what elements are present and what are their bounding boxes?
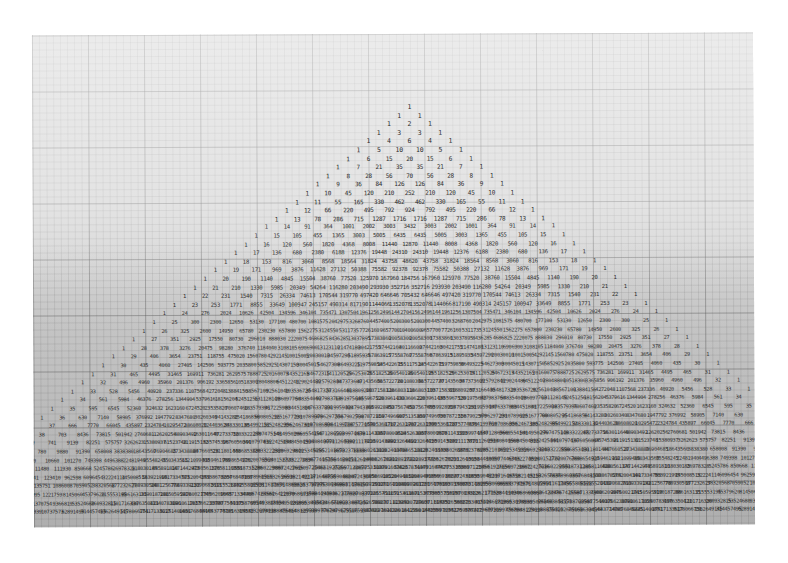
triangle-entry: 23535820 bbox=[594, 404, 617, 409]
triangle-entry: 1771 bbox=[230, 302, 242, 308]
triangle-entry: 136 bbox=[272, 251, 281, 257]
triangle-entry: 9 bbox=[336, 182, 339, 188]
triangle-entry: 293930 bbox=[432, 284, 450, 290]
pascal-triangle: 1111211331146411510105116152015611721353… bbox=[32, 32, 753, 35]
triangle-entry: 2760681 bbox=[134, 432, 154, 437]
triangle-entry: 1 bbox=[428, 121, 432, 128]
triangle-entry: 70 bbox=[406, 173, 413, 179]
triangle-entry: 37442160 bbox=[419, 345, 442, 350]
triangle-entry: 1086008 bbox=[53, 484, 73, 489]
triangle-entry: 2324784 bbox=[144, 423, 164, 428]
triangle-entry: 66045 bbox=[701, 421, 715, 426]
triangle-entry: 7726160 bbox=[441, 327, 461, 332]
triangle-entry: 9 bbox=[480, 181, 483, 187]
triangle-entry: 7059052 bbox=[73, 484, 93, 489]
triangle-entry: 1560780 bbox=[247, 354, 267, 359]
triangle-entry: 1 bbox=[418, 112, 422, 119]
triangle-entry: 24310 bbox=[392, 250, 407, 256]
triangle-entry: 36 bbox=[59, 415, 65, 420]
triangle-entry: 969 bbox=[539, 267, 548, 273]
triangle-entry: 1 bbox=[686, 335, 689, 340]
triangle-entry: 8347680 bbox=[175, 414, 195, 419]
triangle-entry: 1 bbox=[295, 199, 298, 205]
triangle-entry: 92561040 bbox=[532, 387, 555, 392]
triangle-entry: 1 bbox=[613, 275, 616, 281]
triangle-entry: 346104 bbox=[299, 311, 316, 316]
triangle-entry: 1716 bbox=[413, 216, 426, 222]
triangle-entry: 12376 bbox=[453, 250, 468, 256]
triangle-entry: 4 bbox=[428, 138, 432, 145]
triangle-entry: 1 bbox=[285, 208, 288, 214]
triangle-entry: 230230 bbox=[258, 328, 275, 333]
triangle-entry: 1 bbox=[234, 251, 237, 257]
triangle-entry: 1562275 bbox=[298, 328, 318, 333]
triangle-entry: 20 bbox=[222, 277, 228, 283]
triangle-entry: 1 bbox=[521, 198, 524, 204]
triangle-entry: 1 bbox=[572, 241, 575, 247]
triangle-entry: 18643560 bbox=[133, 449, 156, 454]
triangle-entry: 14307150 bbox=[522, 361, 545, 366]
triangle-entry: 19 bbox=[581, 267, 587, 273]
triangle-entry: 245157 bbox=[493, 301, 511, 307]
triangle-entry: 906192 bbox=[197, 380, 214, 385]
triangle-entry: 203490 bbox=[452, 284, 470, 290]
triangle-entry: 1 bbox=[510, 189, 513, 195]
triangle-entry: 11480 bbox=[35, 467, 49, 472]
triangle-entry: 7 bbox=[459, 164, 462, 170]
triangle-entry: 3003 bbox=[424, 224, 436, 230]
triangle-entry: 18643560 bbox=[666, 447, 689, 452]
triangle-entry: 2220075 bbox=[288, 337, 308, 342]
triangle-entry: 346104 bbox=[504, 310, 521, 315]
triangle-entry: 2704156 bbox=[400, 310, 420, 315]
triangle-entry: 8855 bbox=[558, 301, 570, 307]
triangle-entry: 1344904 bbox=[175, 397, 195, 402]
triangle-entry: 3432 bbox=[404, 224, 416, 230]
triangle-entry: 15504 bbox=[505, 275, 520, 281]
triangle-entry: 66045 bbox=[106, 423, 120, 428]
triangle-entry: 496 bbox=[693, 378, 702, 383]
triangle-entry: 38320568 bbox=[707, 481, 730, 486]
triangle-entry: 6188 bbox=[475, 250, 487, 256]
triangle-entry: 4368 bbox=[465, 241, 477, 247]
triangle-entry: 296010 bbox=[556, 335, 573, 340]
triangle-entry: 330 bbox=[435, 198, 445, 204]
triangle-entry: 3365856 bbox=[585, 378, 605, 383]
triangle-entry: 4686825 bbox=[308, 336, 328, 341]
triangle-entry: 286 bbox=[477, 215, 487, 221]
triangle-entry: 10295472 bbox=[164, 423, 187, 428]
triangle-entry: 276 bbox=[201, 311, 210, 316]
triangle-entry: 84 bbox=[437, 181, 444, 187]
triangle-entry: 92378 bbox=[413, 267, 428, 273]
triangle-entry: 64512240 bbox=[522, 379, 545, 384]
triangle-entry: 177100 bbox=[268, 319, 285, 324]
triangle-entry: 1221759 bbox=[42, 492, 62, 497]
triangle-entry: 1 bbox=[377, 130, 381, 137]
triangle-entry: 3262623 bbox=[124, 440, 144, 445]
triangle-entry: 67863915 bbox=[430, 353, 453, 358]
triangle-entry: 75582 bbox=[433, 267, 448, 273]
triangle-entry: 53524680 bbox=[728, 498, 751, 503]
triangle-entry: 497420 bbox=[442, 293, 460, 299]
triangle-entry: 2600 bbox=[200, 328, 211, 333]
triangle-entry: 29 bbox=[131, 355, 137, 360]
triangle-entry: 35 bbox=[69, 406, 75, 411]
triangle-entry: 78 bbox=[499, 215, 506, 221]
triangle-entry: 1 bbox=[224, 260, 227, 266]
triangle-entry: 61523748 bbox=[635, 438, 658, 443]
triangle-entry: 123410 bbox=[44, 475, 61, 480]
triangle-entry: 50388 bbox=[351, 268, 366, 274]
triangle-entry: 30045015 bbox=[502, 361, 525, 366]
triangle-entry: 10626 bbox=[567, 310, 581, 315]
triangle-entry: 167960 bbox=[421, 276, 439, 282]
triangle-entry: 26978328 bbox=[687, 464, 710, 469]
triangle-entry: 6906900 bbox=[298, 345, 318, 350]
triangle-entry: 1184040 bbox=[257, 345, 277, 350]
triangle-entry: 38608020 bbox=[615, 421, 638, 426]
triangle-entry: 1287 bbox=[434, 216, 447, 222]
triangle-entry: 21 bbox=[212, 285, 218, 291]
triangle-entry: 1 bbox=[531, 207, 534, 213]
triangle-entry: 77558760 bbox=[409, 353, 432, 358]
triangle-entry: 177100 bbox=[535, 318, 552, 323]
triangle-entry: 19448 bbox=[371, 250, 386, 256]
triangle-entry: 1330 bbox=[250, 285, 262, 291]
